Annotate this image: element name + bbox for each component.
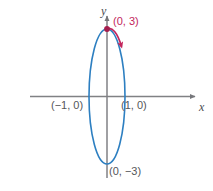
y-axis-label: y [101, 5, 106, 17]
direction-arc [107, 28, 122, 46]
x-axis-label: x [199, 101, 204, 113]
point-label-left: (−1, 0) [51, 100, 83, 111]
plot-canvas [0, 0, 213, 191]
point-label-top: (0, 3) [113, 16, 139, 27]
point-label-right: (1, 0) [121, 100, 147, 111]
vertex-point-top [104, 26, 110, 32]
ellipse-graph-figure: (0, 3) (−1, 0) (1, 0) (0, −3) x y [0, 0, 213, 191]
point-label-bottom: (0, −3) [109, 166, 141, 177]
